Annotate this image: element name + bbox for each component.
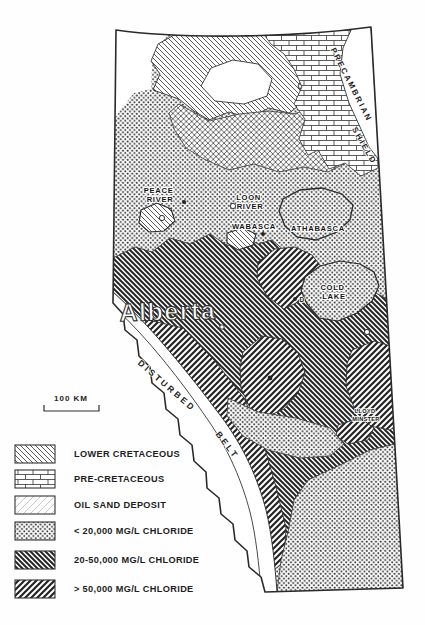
legend-swatch-lower-cretaceous-hatch	[14, 444, 56, 464]
label-lloydminster: LLOYD MINSTER	[352, 408, 379, 422]
small-lake-1	[182, 200, 186, 204]
legend-item-20-50000: 20-50,000 MG/L CHLORIDE	[14, 550, 199, 570]
peace-river-marker	[159, 215, 164, 220]
legend-item-oil-sand: OIL SAND DEPOSIT	[14, 495, 199, 515]
legend-label: LOWER CRETACEOUS	[74, 449, 180, 459]
legend-label: > 50,000 MG/L CHLORIDE	[74, 584, 194, 594]
label-loon-river: LOON RIVER	[236, 193, 264, 211]
legend-item-gt50000: > 50,000 MG/L CHLORIDE	[14, 579, 199, 599]
label-cold-lake: COLD LAKE	[320, 283, 347, 301]
small-circle-feature-2	[364, 329, 369, 334]
legend-swatch-thick-fwd-hatch	[14, 579, 56, 599]
label-alberta: Alberta	[119, 296, 216, 327]
scanned-map-figure: ___ __ ___ ______ ___	[0, 0, 425, 625]
label-wabasca: WABASCA	[232, 222, 276, 231]
scale-bar-label: 100 KM	[54, 394, 88, 403]
legend-label: < 20,000 MG/L CHLORIDE	[74, 526, 194, 536]
legend-item-lt20000: < 20,000 MG/L CHLORIDE	[14, 521, 199, 541]
label-peace-river: PEACE RIVER	[144, 186, 176, 204]
small-circle-feature-1	[220, 325, 224, 329]
scale-bar	[44, 405, 99, 411]
legend-item-lower-cretaceous: LOWER CRETACEOUS	[14, 444, 199, 464]
map-legend: LOWER CRETACEOUS PRE-CRETACEOUS OIL SAND…	[14, 444, 199, 604]
legend-swatch-brick	[14, 469, 56, 489]
small-lake-2	[261, 232, 265, 236]
legend-item-pre-cretaceous: PRE-CRETACEOUS	[14, 469, 199, 489]
legend-swatch-thick-back-hatch	[14, 550, 56, 570]
legend-label: 20-50,000 MG/L CHLORIDE	[74, 555, 199, 565]
legend-swatch-oil-sand	[14, 495, 56, 515]
label-marker-d: D	[300, 296, 305, 303]
label-athabasca: ATHABASCA	[291, 224, 345, 233]
loon-river-marker	[230, 203, 235, 208]
small-lake-3	[268, 376, 273, 381]
legend-swatch-dots	[14, 521, 56, 541]
legend-label: OIL SAND DEPOSIT	[74, 500, 166, 510]
legend-label: PRE-CRETACEOUS	[74, 474, 165, 484]
marker-d-dot	[293, 297, 297, 301]
